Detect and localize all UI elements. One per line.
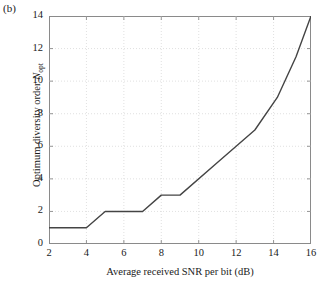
plot-area [49, 16, 311, 244]
gridlines [49, 16, 311, 244]
x-tick-label: 4 [76, 247, 96, 258]
figure-panel-b: (b) 02468101214 246810121416 Average rec… [0, 0, 331, 284]
x-tick-label: 12 [226, 247, 246, 258]
x-tick-label: 14 [264, 247, 284, 258]
series-line-0 [49, 16, 311, 228]
x-tick-label: 16 [301, 247, 321, 258]
x-tick-label: 2 [39, 247, 59, 258]
y-axis-title-text: Optimum diversity order [31, 80, 42, 187]
x-axis-title: Average received SNR per bit (dB) [49, 266, 311, 277]
y-axis-title: Optimum diversity order Nopt [31, 25, 45, 225]
panel-label: (b) [3, 2, 16, 14]
y-axis-symbol: N [31, 73, 42, 80]
x-tick-label: 6 [114, 247, 134, 258]
tick-marks [49, 16, 311, 244]
y-axis-subscript: opt [36, 63, 45, 73]
y-tick-label: 14 [19, 9, 43, 20]
x-tick-label: 8 [151, 247, 171, 258]
x-tick-label: 10 [189, 247, 209, 258]
